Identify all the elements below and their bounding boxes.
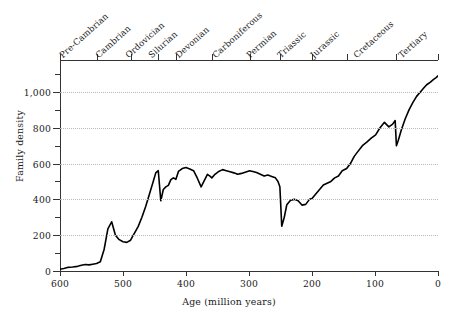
y-tick (53, 128, 60, 129)
y-minor-tick (55, 146, 60, 147)
y-tick (53, 235, 60, 236)
chart-figure: Family density 02004006008001,000 600500… (0, 0, 458, 319)
x-tick (249, 271, 250, 276)
x-tick (186, 271, 187, 276)
top-axis-line (60, 60, 438, 61)
period-boundary-tick (347, 54, 348, 60)
y-minor-tick (55, 110, 60, 111)
x-tick-label: 0 (435, 278, 441, 289)
x-tick-label: 300 (240, 278, 258, 289)
y-tick (53, 199, 60, 200)
y-minor-tick (55, 217, 60, 218)
period-label-jurassic: Jurassic (309, 29, 342, 60)
x-tick-label: 600 (51, 278, 69, 289)
y-tick (53, 271, 60, 272)
period-label-tertiary: Tertiary (397, 29, 430, 60)
x-tick (60, 271, 61, 276)
y-tick-label: 1,000 (24, 86, 51, 97)
plot-area: 02004006008001,000 6005004003002001000 (60, 74, 438, 271)
x-tick-label: 100 (366, 278, 384, 289)
x-tick (375, 271, 376, 276)
gridline (60, 128, 438, 129)
family-density-line-series (60, 74, 438, 271)
gridline (60, 92, 438, 93)
gridline (60, 235, 438, 236)
x-tick (438, 271, 439, 276)
period-boundary-tick (396, 54, 397, 60)
period-label-cretaceous: Cretaceous (351, 19, 395, 60)
y-tick-label: 200 (33, 230, 51, 241)
y-minor-tick (55, 181, 60, 182)
x-tick-label: 500 (114, 278, 132, 289)
period-label-permian: Permian (244, 28, 278, 60)
y-minor-tick (55, 74, 60, 75)
x-tick-label: 200 (303, 278, 321, 289)
y-axis-title: Family density (14, 110, 25, 182)
family-density-path (60, 76, 438, 269)
x-axis-title: Age (million years) (0, 296, 458, 307)
gridline (60, 199, 438, 200)
y-tick (53, 92, 60, 93)
period-label-devonian: Devonian (173, 25, 211, 60)
x-tick (123, 271, 124, 276)
period-boundary-tick (438, 54, 439, 60)
x-tick (312, 271, 313, 276)
y-minor-tick (55, 253, 60, 254)
gridline (60, 164, 438, 165)
y-tick-label: 0 (45, 266, 51, 277)
y-tick-label: 600 (33, 158, 51, 169)
y-tick (53, 164, 60, 165)
y-tick-label: 400 (33, 194, 51, 205)
x-tick-label: 400 (177, 278, 195, 289)
y-tick-label: 800 (33, 122, 51, 133)
period-label-triassic: Triassic (275, 29, 308, 60)
